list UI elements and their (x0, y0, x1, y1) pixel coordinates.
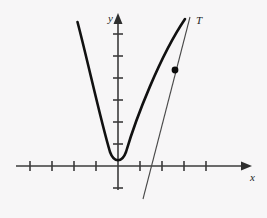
parabola-tangent-figure: y x T (0, 0, 267, 218)
y-axis-arrow-icon (114, 13, 123, 24)
x-axis-arrow-icon (241, 162, 252, 171)
parabola-curve (78, 19, 186, 160)
figure-canvas (0, 0, 267, 218)
tangent-line-label: T (196, 15, 202, 26)
tangency-point-marker (172, 67, 179, 74)
y-axis-label: y (108, 13, 113, 24)
tangent-line-T (143, 17, 190, 199)
x-axis-label: x (250, 172, 255, 183)
